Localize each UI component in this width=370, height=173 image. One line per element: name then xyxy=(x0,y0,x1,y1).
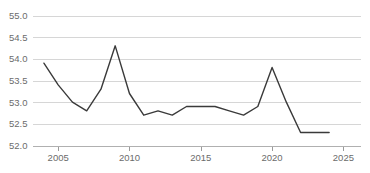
x-axis-tick-marks xyxy=(59,147,344,151)
x-axis-tick-labels: 20052010201520202025 xyxy=(48,152,354,163)
y-tick-label: 52.0 xyxy=(9,140,28,151)
y-axis-tick-labels: 52.052.553.053.554.054.555.0 xyxy=(9,10,28,151)
x-tick-label: 2025 xyxy=(333,152,354,163)
y-tick-label: 52.5 xyxy=(9,118,28,129)
x-tick-label: 2010 xyxy=(119,152,140,163)
y-tick-label: 54.5 xyxy=(9,32,28,43)
chart-canvas: 52.052.553.053.554.054.555.0 20052010201… xyxy=(0,0,370,173)
y-tick-label: 53.5 xyxy=(9,75,28,86)
x-tick-label: 2015 xyxy=(190,152,211,163)
y-tick-label: 54.0 xyxy=(9,53,28,64)
y-tick-label: 55.0 xyxy=(9,10,28,21)
series-line-0 xyxy=(44,46,329,133)
gridlines xyxy=(33,17,361,147)
x-tick-label: 2020 xyxy=(262,152,283,163)
data-series xyxy=(44,46,329,133)
x-tick-label: 2005 xyxy=(48,152,69,163)
line-chart: 52.052.553.053.554.054.555.0 20052010201… xyxy=(0,0,370,173)
y-tick-label: 53.0 xyxy=(9,97,28,108)
